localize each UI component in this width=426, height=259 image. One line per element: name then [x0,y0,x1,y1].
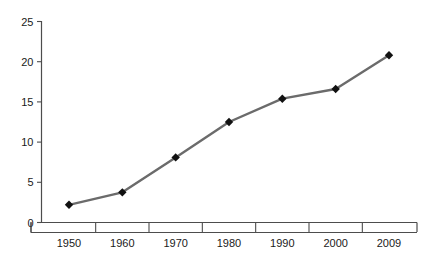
line-chart: 0510152025 1950196019701980199020002009 [0,0,426,259]
x-tick-label: 1980 [217,237,241,249]
x-axis-ticks: 1950196019701980199020002009 [31,223,401,250]
data-point-marker [65,201,73,209]
y-tick-label: 5 [27,176,33,188]
data-point-markers [65,51,393,209]
chart-container: 0510152025 1950196019701980199020002009 [0,0,426,259]
x-tick-label: 2009 [377,237,401,249]
chart-title [0,0,426,1]
y-tick-label: 20 [21,56,33,68]
y-tick-label: 0 [27,217,33,229]
series-line [69,55,389,205]
y-tick-label: 15 [21,96,33,108]
data-point-marker [278,94,286,102]
x-tick-label: 1970 [163,237,187,249]
x-tick-label: 1960 [110,237,134,249]
y-tick-label: 25 [21,16,33,28]
y-axis-ticks: 0510152025 [21,16,41,229]
x-tick-label: 1950 [57,237,81,249]
x-tick-label: 2000 [323,237,347,249]
y-tick-label: 10 [21,136,33,148]
x-tick-label: 1990 [270,237,294,249]
